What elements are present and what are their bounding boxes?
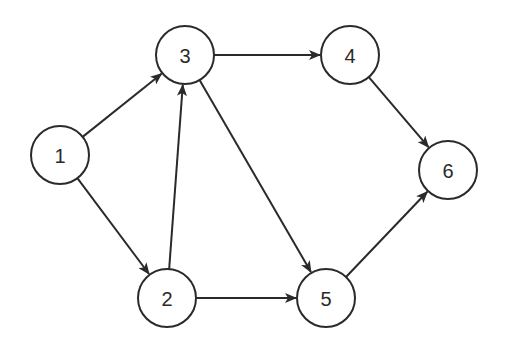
- edge-4-to-6: [369, 77, 429, 147]
- node-3: 3: [156, 26, 214, 84]
- node-label: 1: [54, 145, 65, 167]
- node-6: 6: [419, 141, 477, 199]
- graph-canvas: 1 2 3 4 5 6: [0, 0, 505, 345]
- node-label: 2: [161, 288, 172, 310]
- edge-1-to-3: [83, 74, 162, 137]
- node-label: 3: [179, 45, 190, 67]
- edges-layer: [77, 55, 428, 298]
- nodes-layer: 1 2 3 4 5 6: [31, 26, 477, 327]
- edge-2-to-3: [169, 85, 183, 269]
- node-1: 1: [31, 126, 89, 184]
- node-label: 6: [442, 160, 453, 182]
- node-5: 5: [297, 269, 355, 327]
- node-label: 4: [344, 45, 355, 67]
- node-label: 5: [320, 288, 331, 310]
- node-4: 4: [321, 26, 379, 84]
- edge-1-to-2: [77, 178, 149, 274]
- edge-5-to-6: [346, 192, 427, 277]
- node-2: 2: [138, 269, 196, 327]
- edge-3-to-5: [200, 80, 311, 272]
